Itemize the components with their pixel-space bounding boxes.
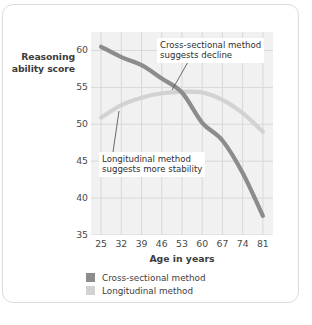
series-line-longitudinal-method: [101, 92, 263, 132]
annotation-longitudinal-line2: suggests more stability: [102, 164, 202, 174]
legend-item-longitudinal[interactable]: Longitudinal method: [86, 284, 286, 297]
legend-item-label: Cross-sectional method: [102, 273, 206, 283]
x-axis-title: Age in years: [91, 253, 273, 264]
leader-line-longitudinal: [113, 111, 119, 152]
annotation-cross-sectional-line2: suggests decline: [160, 50, 261, 60]
y-axis-ticks: 354045505560: [63, 32, 88, 235]
x-tick-label-81: 81: [250, 238, 276, 249]
annotation-longitudinal-line1: Longitudinal method: [102, 154, 202, 164]
y-tick-label-35: 35: [66, 230, 88, 240]
legend-swatch-icon: [86, 273, 95, 282]
legend-swatch-icon: [86, 286, 95, 295]
leader-line-cross-sectional: [172, 62, 188, 90]
y-tick-label-50: 50: [66, 119, 88, 129]
y-tick-label-55: 55: [66, 82, 88, 92]
annotation-longitudinal: Longitudinal method suggests more stabil…: [99, 152, 205, 177]
chart-card: Reasoning ability score 354045505560 Cro…: [2, 4, 299, 303]
y-tick-label-40: 40: [66, 193, 88, 203]
legend-item-cross-sectional[interactable]: Cross-sectional method: [86, 271, 286, 284]
annotation-cross-sectional-line1: Cross-sectional method: [160, 40, 261, 50]
chart-legend: Cross-sectional methodLongitudinal metho…: [86, 271, 286, 297]
x-axis-ticks: 253239465360677481: [91, 238, 273, 252]
annotation-cross-sectional: Cross-sectional method suggests decline: [157, 38, 264, 63]
y-tick-label-45: 45: [66, 156, 88, 166]
y-tick-label-60: 60: [66, 45, 88, 55]
legend-item-label: Longitudinal method: [102, 286, 193, 296]
